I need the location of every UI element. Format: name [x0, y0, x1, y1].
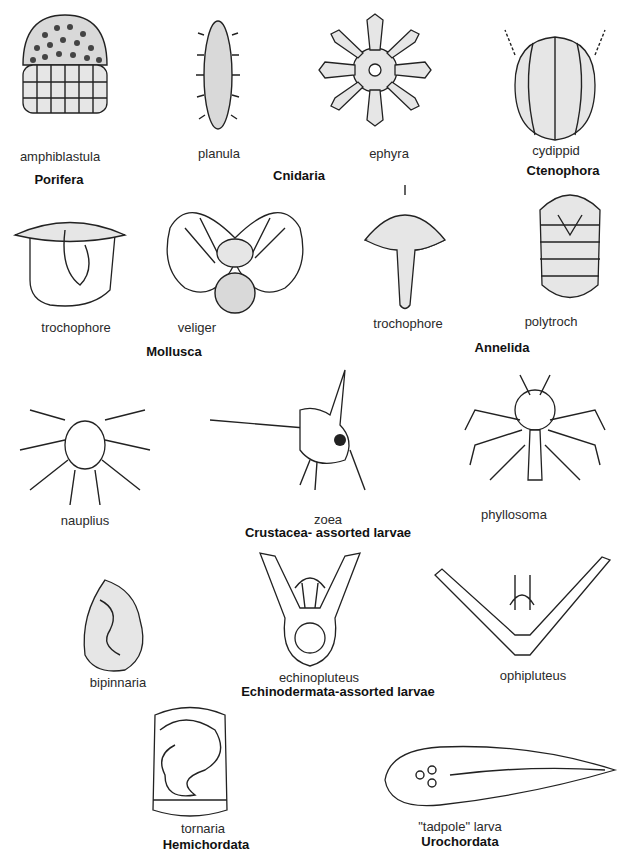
zoea-illustration	[205, 370, 405, 500]
trochophore-mollusca-illustration	[10, 190, 130, 315]
group-crustacea: Crustacea- assorted larvae	[245, 525, 411, 540]
group-cnidaria: Cnidaria	[273, 168, 325, 183]
label-phyllosoma: phyllosoma	[481, 507, 547, 522]
label-echinopluteus: echinopluteus	[279, 670, 359, 685]
tornaria-illustration	[145, 700, 235, 825]
ephyra-illustration	[320, 10, 430, 140]
label-nauplius: nauplius	[61, 513, 109, 528]
label-ophipluteus: ophipluteus	[500, 668, 567, 683]
label-tornaria: tornaria	[181, 821, 225, 836]
polytroch-illustration	[530, 180, 610, 315]
label-tadpole-larva: "tadpole" larva	[418, 819, 502, 834]
nauplius-illustration	[10, 390, 160, 510]
planula-illustration	[196, 15, 240, 135]
label-polytroch: polytroch	[525, 314, 578, 329]
label-trochophore-annelida: trochophore	[373, 316, 442, 331]
cydippid-illustration	[505, 25, 605, 145]
group-porifera: Porifera	[34, 172, 83, 187]
label-ephyra: ephyra	[369, 146, 409, 161]
group-urochordata: Urochordata	[421, 834, 498, 849]
label-trochophore-mollusca: trochophore	[41, 320, 110, 335]
ophipluteus-illustration	[430, 555, 620, 665]
phyllosoma-illustration	[460, 370, 610, 505]
trochophore-annelida-illustration	[355, 190, 455, 315]
bipinnaria-illustration	[75, 575, 155, 675]
group-annelida: Annelida	[475, 340, 530, 355]
group-echinodermata: Echinodermata-assorted larvae	[241, 684, 435, 699]
label-cydippid: cydippid	[532, 143, 580, 158]
tadpole-larva-illustration	[380, 735, 620, 815]
echinopluteus-illustration	[250, 548, 370, 673]
veliger-illustration	[160, 188, 310, 318]
group-ctenophora: Ctenophora	[527, 163, 600, 178]
amphiblastula-illustration	[15, 10, 115, 120]
label-veliger: veliger	[178, 320, 216, 335]
label-bipinnaria: bipinnaria	[90, 675, 146, 690]
label-amphiblastula: amphiblastula	[20, 149, 100, 164]
label-planula: planula	[198, 146, 240, 161]
group-mollusca: Mollusca	[146, 344, 202, 359]
group-hemichordata: Hemichordata	[163, 837, 250, 852]
